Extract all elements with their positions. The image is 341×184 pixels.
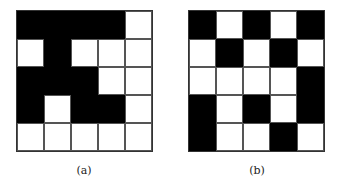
cell-r0-c2 <box>243 11 270 39</box>
cell-r1-c4 <box>125 39 152 67</box>
cell-r0-c1 <box>216 11 243 39</box>
cell-r1-c1 <box>44 39 71 67</box>
cell-r2-c0 <box>17 67 44 95</box>
grid-a <box>16 10 153 152</box>
cell-r2-c1 <box>216 67 243 95</box>
cell-r3-c1 <box>44 95 71 123</box>
cell-r0-c0 <box>189 11 216 39</box>
cell-r1-c3 <box>270 39 297 67</box>
cell-r4-c2 <box>243 123 270 151</box>
cell-r0-c3 <box>98 11 125 39</box>
cell-r3-c0 <box>17 95 44 123</box>
cell-r1-c2 <box>243 39 270 67</box>
cell-r1-c0 <box>189 39 216 67</box>
cell-r1-c0 <box>17 39 44 67</box>
cell-r0-c3 <box>270 11 297 39</box>
cell-r2-c1 <box>44 67 71 95</box>
cell-r3-c3 <box>98 95 125 123</box>
caption-a: (a) <box>64 164 104 177</box>
cell-r3-c2 <box>71 95 98 123</box>
cell-r2-c2 <box>243 67 270 95</box>
cell-r1-c4 <box>297 39 324 67</box>
cell-r0-c0 <box>17 11 44 39</box>
cell-r1-c2 <box>71 39 98 67</box>
cell-r0-c2 <box>71 11 98 39</box>
cell-r4-c1 <box>44 123 71 151</box>
cell-r1-c3 <box>98 39 125 67</box>
grid-b <box>188 10 325 152</box>
cell-r2-c4 <box>297 67 324 95</box>
cell-r0-c4 <box>125 11 152 39</box>
cell-r4-c4 <box>125 123 152 151</box>
cell-r3-c4 <box>125 95 152 123</box>
cell-r4-c1 <box>216 123 243 151</box>
cell-r0-c4 <box>297 11 324 39</box>
cell-r3-c3 <box>270 95 297 123</box>
cell-r2-c3 <box>98 67 125 95</box>
cell-r4-c3 <box>270 123 297 151</box>
cell-r2-c0 <box>189 67 216 95</box>
cell-r4-c2 <box>71 123 98 151</box>
cell-r2-c2 <box>71 67 98 95</box>
cell-r3-c1 <box>216 95 243 123</box>
cell-r2-c4 <box>125 67 152 95</box>
caption-b: (b) <box>237 164 277 177</box>
cell-r3-c2 <box>243 95 270 123</box>
cell-r4-c0 <box>17 123 44 151</box>
cell-r3-c4 <box>297 95 324 123</box>
cell-r4-c3 <box>98 123 125 151</box>
cell-r4-c4 <box>297 123 324 151</box>
cell-r3-c0 <box>189 95 216 123</box>
cell-r1-c1 <box>216 39 243 67</box>
cell-r4-c0 <box>189 123 216 151</box>
cell-r0-c1 <box>44 11 71 39</box>
cell-r2-c3 <box>270 67 297 95</box>
